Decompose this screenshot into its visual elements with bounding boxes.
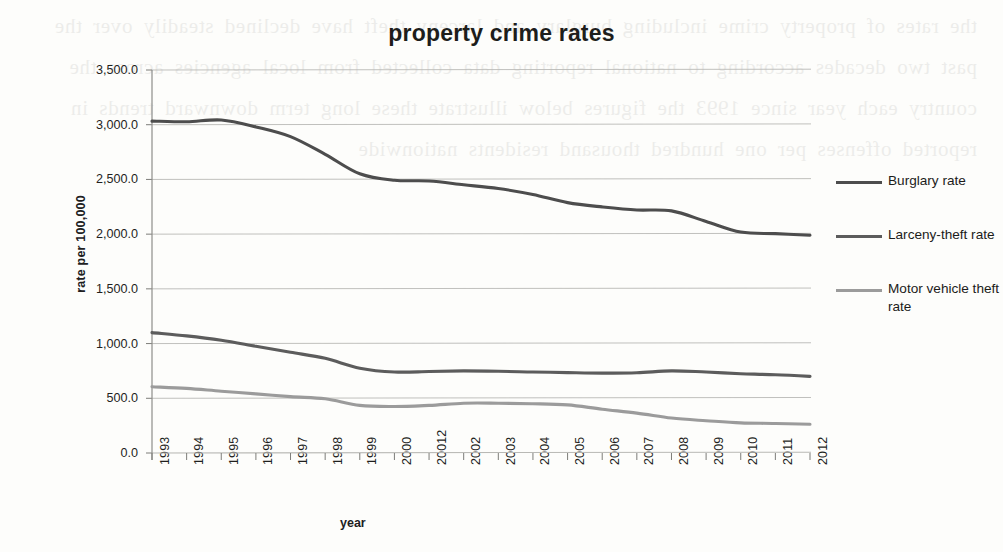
- legend-item[interactable]: Burglary rate: [836, 172, 1001, 190]
- chart-legend: Burglary rateLarceny-theft rateMotor veh…: [836, 172, 1001, 352]
- legend-swatch-line-icon: [836, 289, 882, 292]
- gridline: [152, 179, 811, 180]
- legend-item-label: Burglary rate: [888, 172, 1001, 190]
- gridline: [152, 233, 811, 234]
- gridline: [152, 397, 811, 398]
- gridline: [152, 343, 811, 344]
- legend-item-label: Motor vehicle theft rate: [888, 280, 1001, 316]
- legend-swatch-line-icon: [836, 235, 882, 238]
- legend-item[interactable]: Larceny-theft rate: [836, 226, 1001, 244]
- gridline: [152, 69, 811, 70]
- series-line: [152, 120, 810, 235]
- gridline: [152, 288, 811, 289]
- series-line: [152, 387, 810, 425]
- series-line: [152, 333, 810, 377]
- legend-swatch-line-icon: [836, 181, 882, 184]
- gridline: [152, 452, 811, 453]
- legend-item-label: Larceny-theft rate: [888, 226, 1001, 244]
- legend-item[interactable]: Motor vehicle theft rate: [836, 280, 1001, 316]
- line-chart: property crime rates rate per 100,000 ye…: [0, 0, 1003, 552]
